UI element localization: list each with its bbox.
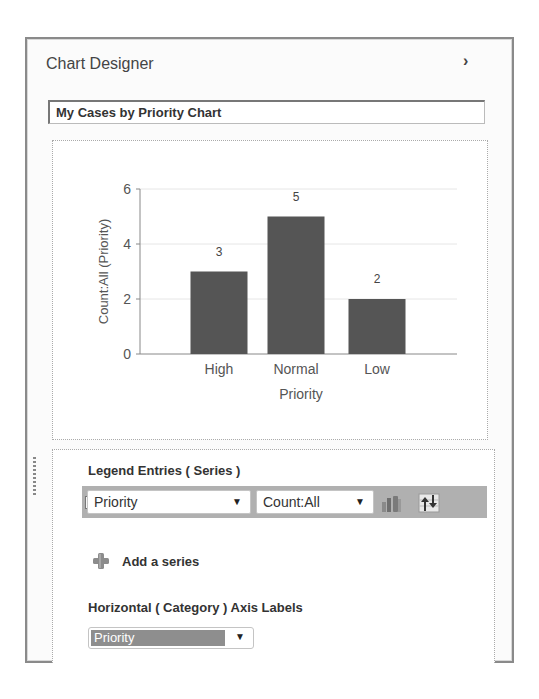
bar — [349, 299, 406, 354]
y-tick-label: 2 — [123, 291, 131, 307]
x-axis-title: Priority — [279, 386, 323, 402]
y-tick-label: 4 — [123, 236, 131, 252]
chevron-right-icon[interactable]: › — [463, 52, 468, 70]
y-axis-title: Count:All (Priority) — [96, 219, 111, 324]
add-series-button[interactable]: Add a series — [92, 550, 199, 572]
x-tick-label: Normal — [273, 361, 318, 377]
y-tick-label: 6 — [123, 181, 131, 197]
dropdown-arrow-icon: ▼ — [232, 491, 242, 513]
data-label: 5 — [293, 190, 300, 204]
data-label: 3 — [216, 245, 223, 259]
bar — [268, 217, 325, 355]
splitter-grip[interactable] — [33, 457, 36, 497]
bar-chart-type-icon[interactable] — [381, 493, 403, 517]
add-series-label: Add a series — [122, 554, 199, 569]
category-axis-heading: Horizontal ( Category ) Axis Labels — [88, 600, 303, 615]
dropdown-arrow-icon: ▼ — [355, 491, 365, 513]
panel-title: Chart Designer — [46, 55, 154, 73]
series-aggregate-value: Count:All — [263, 494, 320, 510]
y-tick-label: 0 — [123, 346, 131, 362]
x-tick-label: Low — [364, 361, 391, 377]
chart-preview: 02463High5Normal2LowPriorityCount:All (P… — [52, 140, 488, 440]
series-field-value: Priority — [94, 494, 138, 510]
category-axis-dropdown[interactable]: Priority ▼ — [88, 627, 254, 649]
bar — [191, 272, 248, 355]
bar-chart: 02463High5Normal2LowPriorityCount:All (P… — [53, 141, 489, 441]
category-axis-value: Priority — [91, 630, 225, 646]
series-field-dropdown[interactable]: Priority ▼ — [87, 490, 251, 514]
x-tick-label: High — [205, 361, 234, 377]
chart-title-input[interactable] — [48, 100, 485, 124]
dropdown-arrow-icon: ▼ — [235, 631, 245, 642]
data-label: 2 — [374, 272, 381, 286]
sort-order-icon[interactable] — [418, 493, 440, 517]
plus-icon — [92, 552, 110, 570]
legend-entries-heading: Legend Entries ( Series ) — [88, 463, 240, 478]
series-aggregate-dropdown[interactable]: Count:All ▼ — [256, 490, 374, 514]
